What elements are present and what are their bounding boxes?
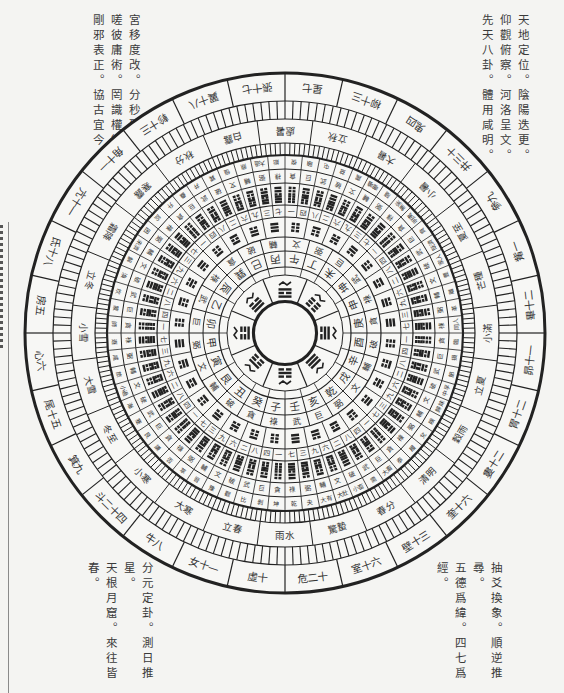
number-label: 七 xyxy=(275,207,282,216)
mountain-label: 壬 xyxy=(289,400,300,413)
mountain-label: 卯 xyxy=(205,318,218,329)
number-label: 七 xyxy=(159,335,168,342)
hexagram-star-label: 貪 xyxy=(274,485,281,494)
trigram-icon xyxy=(291,434,300,444)
number-label: 七 xyxy=(287,450,294,459)
hexagram-star-label: 巨 xyxy=(258,484,266,493)
hexagram-star-label: 祿 xyxy=(437,322,446,329)
solar-term-label: 雨水 xyxy=(275,530,295,541)
hexagram-star-label: 巨 xyxy=(125,306,134,314)
number-label: 四 xyxy=(401,347,410,355)
number-label: 四 xyxy=(263,449,271,458)
trigram-icon xyxy=(415,323,423,330)
number-label: 一 xyxy=(403,335,411,342)
hexagram-star-label: 貪 xyxy=(124,322,133,329)
hexagram-name-label: 姤 xyxy=(273,158,279,166)
star-label: 破 xyxy=(368,340,379,350)
solar-term-label: 小滿 xyxy=(482,323,493,343)
hexagram-star-label: 弼 xyxy=(436,306,445,314)
luopan-compass-diagram: 虛十女十一牛八斗二十四箕九尾十五心六房五氐十八亢十一角十一軫十三翼十八張十七星七… xyxy=(0,0,564,693)
number-label: 一 xyxy=(287,207,294,215)
star-label: 貪 xyxy=(368,316,379,326)
star-label: 武 xyxy=(292,416,302,427)
lunar-mansion-label: 心六 xyxy=(33,350,47,371)
mountain-label: 甲 xyxy=(205,337,218,348)
hexagram-star-label: 弼 xyxy=(258,173,266,182)
hexagram-star-label: 巨 xyxy=(304,173,312,182)
number-label: 三 xyxy=(299,449,307,458)
trigram-icon xyxy=(270,223,279,233)
hexagram-star-label: 貪 xyxy=(437,337,446,344)
mountain-label: 酉 xyxy=(352,337,365,348)
number-label: 四 xyxy=(299,208,307,217)
trigram-icon xyxy=(147,336,155,343)
star-label: 弼 xyxy=(191,340,202,350)
star-label: 祿 xyxy=(268,416,278,427)
trigram-icon xyxy=(275,195,282,203)
hexagram-name-label: 復 xyxy=(290,158,296,166)
hexagram-star-label: 祿 xyxy=(289,485,296,494)
number-label: 四 xyxy=(160,311,169,319)
hexagram-name-label: 蒙 xyxy=(112,304,120,311)
hexagram-star-label: 弼 xyxy=(304,484,312,493)
number-label: 三 xyxy=(263,208,271,217)
mountain-label: 子 xyxy=(270,400,281,413)
number-label: 一 xyxy=(275,451,282,459)
trigram-icon xyxy=(288,463,295,471)
hexagram-star-label: 祿 xyxy=(274,172,281,181)
hexagram-star-label: 貪 xyxy=(289,172,296,181)
hexagram-star-label: 祿 xyxy=(124,337,133,344)
trigram-icon xyxy=(175,339,185,348)
mountain-label: 午 xyxy=(289,253,300,266)
hexagram-star-label: 巨 xyxy=(436,352,445,360)
center-tianchi xyxy=(254,302,316,364)
lunar-mansion-label: 虛十 xyxy=(247,570,268,584)
solar-term-label: 處暑 xyxy=(275,126,295,137)
hexagram-name-label: 師 xyxy=(110,321,118,327)
hexagram-star-label: 弼 xyxy=(125,352,134,360)
number-label: 七 xyxy=(402,323,411,330)
solar-term-label: 小雪 xyxy=(78,323,89,343)
trigram-icon xyxy=(386,318,396,327)
number-label: 三 xyxy=(401,311,410,319)
star-label: 輔 xyxy=(268,239,278,250)
mountain-label: 丙 xyxy=(270,253,281,266)
lunar-mansion-label: 星七 xyxy=(302,81,323,95)
star-label: 文 xyxy=(292,239,302,250)
star-label: 巨 xyxy=(191,316,202,326)
number-label: 一 xyxy=(159,323,167,330)
number-label: 三 xyxy=(160,347,169,355)
lunar-mansion-label: 房五 xyxy=(33,295,47,316)
